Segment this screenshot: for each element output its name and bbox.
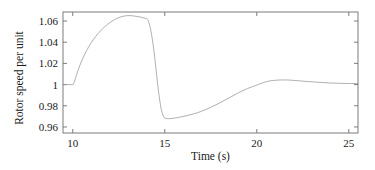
x-tick-label: 10 [67,138,78,149]
x-tick-label: 15 [159,138,170,149]
rotor-speed-chart-figure: 0.960.9811.021.041.06 10152025 Rotor spe… [0,0,375,170]
x-tick-label: 20 [251,138,262,149]
x-tick-label: 25 [343,138,354,149]
x-axis-title: Time (s) [63,150,358,162]
y-axis-title: Rotor speed per unit [13,13,25,143]
plot-frame [63,12,358,133]
